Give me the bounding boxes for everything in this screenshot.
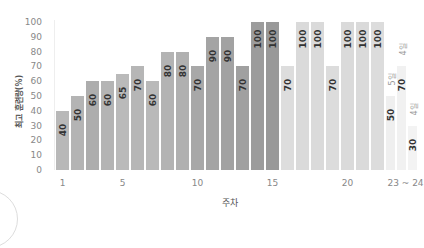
bar-value-label: 100 [268,30,278,49]
bar: 50 [386,96,395,170]
bar-value-label: 100 [373,30,383,49]
y-tick-label: 90 [22,32,42,42]
bar: 60 [86,81,99,170]
bar-value-label: 70 [238,79,248,92]
bar: 80 [161,52,174,170]
bar-value-label: 70 [397,79,407,92]
bar: 60 [101,81,114,170]
x-tick-label: 10 [192,178,203,188]
bar: 70 [281,66,294,170]
bar: 90 [206,37,219,170]
bar-value-label: 60 [148,94,158,107]
bar: 70 [397,66,406,170]
bar-value-label: 40 [58,124,68,137]
y-tick-label: 50 [22,91,42,101]
bar-annotation: 5일 [385,73,396,85]
bar: 100 [296,22,309,170]
x-axis-label: 주차 [222,196,238,209]
bar-value-label: 70 [328,79,338,92]
bar-value-label: 30 [408,138,418,151]
bar: 100 [266,22,279,170]
bar: 100 [311,22,324,170]
bar-value-label: 80 [178,64,188,77]
y-tick-label: 20 [22,135,42,145]
bar: 80 [176,52,189,170]
bar-value-label: 100 [298,30,308,49]
x-tick-label: 1 [60,178,66,188]
bar-value-label: 70 [193,79,203,92]
bar-annotation: 4일 [407,103,418,115]
bar: 60 [146,81,159,170]
bar: 70 [236,66,249,170]
bar: 30 [408,126,417,170]
bar-value-label: 60 [88,94,98,107]
bar-value-label: 70 [283,79,293,92]
bar: 100 [251,22,264,170]
bar-value-label: 90 [208,50,218,63]
bar: 100 [341,22,354,170]
bar: 100 [356,22,369,170]
y-tick-label: 10 [22,150,42,160]
bar-value-label: 60 [103,94,113,107]
bar: 70 [326,66,339,170]
y-tick-label: 100 [22,17,42,27]
y-tick-label: 30 [22,121,42,131]
bar-value-label: 70 [133,79,143,92]
x-tick-label: 23 ~ 24 [387,178,423,188]
x-tick-label: 15 [267,178,278,188]
y-tick-label: 60 [22,76,42,86]
bar-value-label: 80 [163,64,173,77]
bar-annotation: 4일 [396,44,407,56]
y-tick-label: 0 [22,165,42,175]
bar: 40 [56,111,69,170]
bar-value-label: 100 [343,30,353,49]
bar: 70 [131,66,144,170]
bar: 90 [221,37,234,170]
bar-value-label: 50 [386,109,396,122]
y-tick-label: 70 [22,61,42,71]
y-axis-line [54,20,55,170]
decorative-arc [0,190,18,248]
x-tick-label: 5 [120,178,126,188]
y-tick-label: 80 [22,47,42,57]
bar-value-label: 50 [73,109,83,122]
bar-value-label: 90 [223,50,233,63]
y-tick-label: 40 [22,106,42,116]
bar-value-label: 100 [358,30,368,49]
bar: 50 [71,96,84,170]
bar-value-label: 65 [118,87,128,100]
bar-value-label: 100 [253,30,263,49]
bar: 100 [371,22,384,170]
bar: 65 [116,74,129,170]
bar-value-label: 100 [313,30,323,49]
bar: 70 [191,66,204,170]
x-tick-label: 20 [342,178,353,188]
